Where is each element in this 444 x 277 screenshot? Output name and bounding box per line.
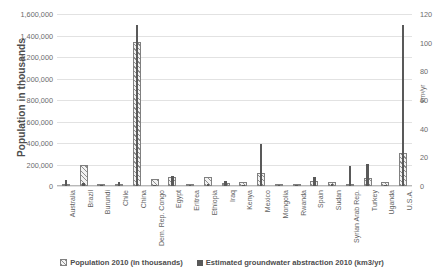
groundwater-bar xyxy=(153,185,156,186)
x-axis-category-label: China xyxy=(140,190,147,208)
groundwater-bar xyxy=(349,166,352,186)
y-axis-tick-label: 1,200,000 xyxy=(1,53,53,62)
bar-group xyxy=(323,14,341,186)
bar-group xyxy=(235,14,253,186)
groundwater-bar xyxy=(366,164,369,186)
bar-group xyxy=(377,14,395,186)
chart-legend: Population 2010 (in thousands) Estimated… xyxy=(0,258,444,267)
bar-group xyxy=(217,14,235,186)
legend-item-population: Population 2010 (in thousands) xyxy=(60,258,183,267)
x-axis-category-label: Chile xyxy=(122,190,129,206)
legend-label-population: Population 2010 (in thousands) xyxy=(70,258,183,267)
y-axis-tick-label: 800,000 xyxy=(1,96,53,105)
groundwater-bar xyxy=(313,177,316,186)
x-axis-category-label: Mexico xyxy=(264,190,271,212)
bar-group xyxy=(75,14,93,186)
y-axis-tick-label: 1,600,000 xyxy=(1,10,53,19)
x-axis-category-label: Sudan xyxy=(335,190,342,210)
legend-item-groundwater: Estimated groundwater abstraction 2010 (… xyxy=(197,258,384,267)
x-axis-category-label: Iraq xyxy=(229,190,236,202)
groundwater-bar xyxy=(189,185,192,186)
groundwater-bar xyxy=(331,184,334,186)
bar-group xyxy=(270,14,288,186)
x-axis-category-label: Eritrea xyxy=(193,190,200,211)
secondary-y-axis-tick-label: 40 xyxy=(420,124,444,133)
y-axis-tick-label: 0 xyxy=(1,182,53,191)
x-axis-category-label: Kenya xyxy=(246,190,253,210)
bar-group xyxy=(252,14,270,186)
bar-group xyxy=(288,14,306,186)
groundwater-bar xyxy=(82,183,85,186)
groundwater-bar xyxy=(207,184,210,186)
legend-label-groundwater: Estimated groundwater abstraction 2010 (… xyxy=(206,258,384,267)
bar-group xyxy=(93,14,111,186)
bar-group xyxy=(199,14,217,186)
secondary-y-axis-tick-label: 80 xyxy=(420,67,444,76)
y-axis-tick-label: 400,000 xyxy=(1,139,53,148)
bar-group xyxy=(128,14,146,186)
x-axis-category-label: Uganda xyxy=(388,190,395,215)
x-axis-category-label: Rwanda xyxy=(300,190,307,216)
bar-group xyxy=(181,14,199,186)
x-axis-category-label: Mongolia xyxy=(282,190,289,218)
x-axis-category-label: Turkey xyxy=(371,190,378,211)
y-axis-tick-label: 200,000 xyxy=(1,160,53,169)
secondary-y-axis-tick-label: 120 xyxy=(420,10,444,19)
groundwater-bar xyxy=(242,185,245,186)
y-axis-tick-label: 1,400,000 xyxy=(1,31,53,40)
solid-dark-swatch-icon xyxy=(197,260,203,266)
x-axis-category-label: Ethiopia xyxy=(211,190,218,215)
bar-group xyxy=(394,14,412,186)
x-axis-category-label: Dem. Rep. Congo xyxy=(158,190,165,246)
bar-group xyxy=(57,14,75,186)
x-axis-category-label: Syrian Arab Rep. xyxy=(353,190,360,243)
hatched-bar-swatch-icon xyxy=(60,259,67,266)
groundwater-bar xyxy=(171,176,174,186)
bar-group xyxy=(341,14,359,186)
groundwater-bar xyxy=(65,180,68,186)
secondary-y-axis-title: km³/yr xyxy=(419,72,426,116)
gridline xyxy=(57,186,412,187)
plot-area: 0200,000400,000600,000800,0001,000,0001,… xyxy=(57,14,412,186)
groundwater-bar xyxy=(100,185,103,186)
y-axis-tick-label: 1,000,000 xyxy=(1,74,53,83)
x-axis-category-label: Burundi xyxy=(104,190,111,214)
y-axis-tick-label: 600,000 xyxy=(1,117,53,126)
x-axis-category-label: Brazil xyxy=(87,190,94,208)
groundwater-bar xyxy=(402,25,405,186)
groundwater-bar xyxy=(384,185,387,186)
bar-group xyxy=(146,14,164,186)
bar-group xyxy=(110,14,128,186)
groundwater-bar xyxy=(136,25,139,186)
secondary-y-axis-tick-label: 20 xyxy=(420,153,444,162)
groundwater-bar xyxy=(295,185,298,186)
x-axis-category-label: Australia xyxy=(69,190,76,217)
x-axis-category-label: Spain xyxy=(317,190,324,208)
chart-container: Population in thousands km³/yr 0200,0004… xyxy=(0,0,444,277)
groundwater-bar xyxy=(224,181,227,186)
secondary-y-axis-tick-label: 0 xyxy=(420,182,444,191)
groundwater-bar xyxy=(278,185,281,186)
secondary-y-axis-tick-label: 60 xyxy=(420,96,444,105)
x-axis-category-label: Egypt xyxy=(175,190,182,208)
secondary-y-axis-tick-label: 100 xyxy=(420,38,444,47)
groundwater-bar xyxy=(118,182,121,186)
bar-group xyxy=(306,14,324,186)
bar-group xyxy=(164,14,182,186)
x-axis-category-label: U.S.A. xyxy=(406,190,413,210)
groundwater-bar xyxy=(260,144,263,186)
bar-group xyxy=(359,14,377,186)
